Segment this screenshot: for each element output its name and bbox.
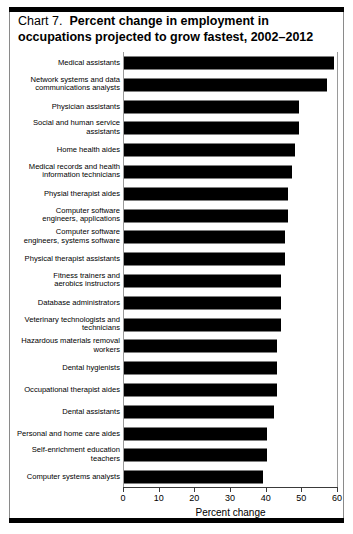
y-axis-line [123, 52, 124, 488]
category-label: Computer software engineers, application… [14, 207, 120, 224]
category-label: Personal and home care aides [14, 429, 120, 438]
x-axis-tick [266, 488, 267, 492]
x-axis-tick-label: 60 [332, 493, 342, 503]
bar [124, 144, 295, 157]
x-axis-title: Percent change [123, 507, 338, 518]
bar [124, 56, 334, 69]
category-label: Computer software engineers, systems sof… [14, 229, 120, 246]
category-label: Dental hygienists [14, 364, 120, 373]
bar [124, 449, 267, 462]
x-axis-tick-label: 50 [296, 493, 306, 503]
category-label: Occupational therapist aides [14, 386, 120, 395]
bar [124, 231, 285, 244]
chart-title-label: Chart 7. [18, 14, 62, 28]
category-label: Hazardous materials removal workers [14, 338, 120, 355]
x-axis-tick-label: 20 [189, 493, 199, 503]
x-axis-tick-label: 10 [154, 493, 164, 503]
bar [124, 318, 281, 331]
category-label: Medical assistants [14, 59, 120, 68]
category-label: Database administrators [14, 298, 120, 307]
bar [124, 340, 277, 353]
bar [124, 78, 327, 91]
x-axis-tick-label: 30 [225, 493, 235, 503]
x-axis-tick-label: 0 [120, 493, 125, 503]
plot-right-border [337, 52, 338, 488]
bars-area: Percent change 0102030405060 [123, 52, 338, 488]
category-axis: Medical assistantsNetwork systems and da… [14, 52, 120, 488]
x-axis-tick [230, 488, 231, 492]
category-label: Social and human service assistants [14, 120, 120, 137]
x-axis-tick [123, 488, 124, 492]
category-label: Home health aides [14, 146, 120, 155]
bar [124, 383, 277, 396]
category-label: Physical therapist assistants [14, 255, 120, 264]
bar [124, 253, 285, 266]
chart-title: Chart 7. Percent change in employment in… [18, 14, 336, 45]
category-label: Veterinary technologists and technicians [14, 316, 120, 333]
category-label: Medical records and health information t… [14, 163, 120, 180]
bar [124, 187, 288, 200]
bar [124, 362, 277, 375]
bottom-rule [9, 518, 344, 523]
x-axis-tick [337, 488, 338, 492]
category-label: Self-enrichment education teachers [14, 447, 120, 464]
bar [124, 122, 299, 135]
category-label: Network systems and data communications … [14, 76, 120, 93]
bar [124, 100, 299, 113]
x-axis-tick-label: 40 [261, 493, 271, 503]
bar [124, 405, 274, 418]
bar [124, 209, 288, 222]
bar [124, 471, 263, 484]
bar [124, 296, 281, 309]
category-label: Computer systems analysts [14, 473, 120, 482]
category-label: Physial therapist aides [14, 189, 120, 198]
category-label: Dental assistants [14, 407, 120, 416]
plot-area: Medical assistantsNetwork systems and da… [14, 52, 338, 488]
category-label: Fitness trainers and aerobics instructor… [14, 272, 120, 289]
x-axis-tick [301, 488, 302, 492]
bar [124, 165, 292, 178]
category-label: Physician assistants [14, 102, 120, 111]
bar [124, 427, 267, 440]
bar [124, 274, 281, 287]
chart-figure: Chart 7. Percent change in employment in… [0, 0, 353, 534]
x-axis-tick [159, 488, 160, 492]
x-axis-tick [194, 488, 195, 492]
top-rule [9, 7, 344, 12]
